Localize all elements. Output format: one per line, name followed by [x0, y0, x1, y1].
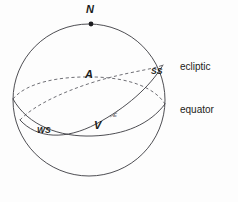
autumnal-equinox-label: A	[85, 69, 93, 80]
north-pole-label: N	[86, 4, 94, 15]
equator-label: equator	[180, 105, 214, 115]
sphere-outline-circle	[13, 24, 165, 176]
ecliptic-label: ecliptic	[180, 62, 211, 72]
winter-solstice-label: WS	[37, 126, 51, 135]
obliquity-angle-label: E	[113, 112, 117, 118]
summer-solstice-label: SS	[151, 67, 162, 76]
sphere-diagram-svg	[0, 0, 238, 202]
north-pole-dot	[89, 22, 94, 27]
equator-back-arc	[13, 77, 165, 104]
equator-front-arc	[13, 99, 165, 136]
vernal-equinox-label: V	[94, 120, 101, 131]
celestial-sphere-figure: N A V SS WS E ecliptic equator	[0, 0, 238, 202]
